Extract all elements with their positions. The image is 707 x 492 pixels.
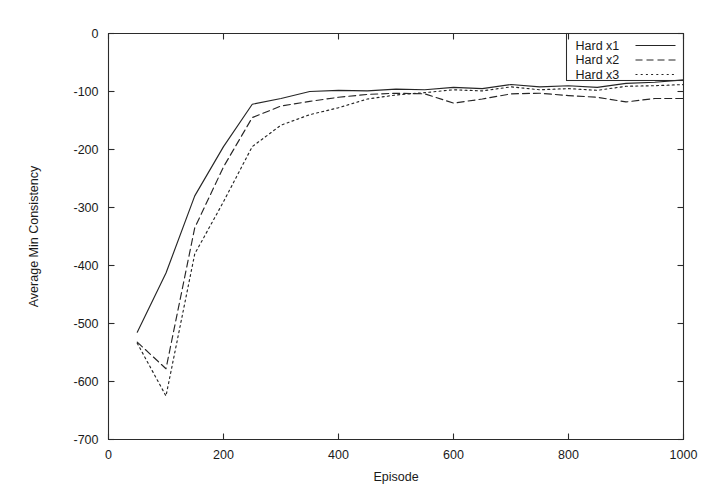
- chart-legend: Hard x1Hard x2Hard x3: [567, 34, 684, 82]
- line-chart: 020040060080010000-100-200-300-400-500-6…: [0, 0, 707, 492]
- y-tick-label: -300: [73, 201, 98, 215]
- x-tick-label: 600: [443, 448, 464, 462]
- legend-label-hard-x1: Hard x1: [576, 39, 620, 53]
- legend-label-hard-x3: Hard x3: [576, 68, 620, 82]
- series-line-hard-x3: [137, 85, 683, 396]
- y-tick-label: -700: [73, 433, 98, 447]
- chart-figure: 020040060080010000-100-200-300-400-500-6…: [0, 0, 707, 492]
- x-tick-label: 400: [328, 448, 349, 462]
- y-tick-label: -500: [73, 317, 98, 331]
- x-tick-label: 0: [105, 448, 112, 462]
- x-tick-label: 800: [558, 448, 579, 462]
- x-axis-title: Episode: [373, 470, 418, 484]
- chart-series: [137, 80, 683, 396]
- series-line-hard-x1: [137, 80, 683, 332]
- chart-tick-labels: 020040060080010000-100-200-300-400-500-6…: [73, 27, 697, 462]
- series-line-hard-x2: [137, 93, 683, 369]
- y-tick-label: -200: [73, 143, 98, 157]
- plot-frame: [109, 34, 684, 440]
- legend-label-hard-x2: Hard x2: [576, 53, 620, 67]
- chart-axes: [109, 34, 684, 440]
- x-tick-label: 200: [213, 448, 234, 462]
- y-axis-title: Average Min Consistency: [27, 165, 41, 307]
- x-tick-label: 1000: [670, 448, 698, 462]
- chart-ticks: [109, 34, 684, 440]
- y-tick-label: 0: [92, 27, 99, 41]
- y-tick-label: -100: [73, 85, 98, 99]
- y-tick-label: -600: [73, 375, 98, 389]
- y-tick-label: -400: [73, 259, 98, 273]
